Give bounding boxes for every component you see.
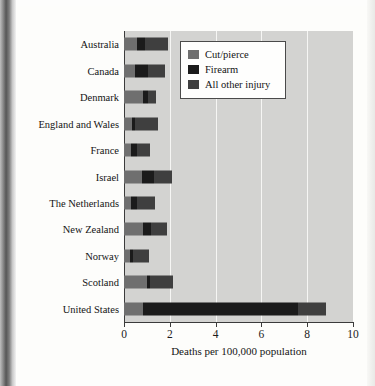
x-axis-tick-label: 4	[213, 328, 219, 340]
bar-segment	[135, 117, 158, 130]
x-axis-tick	[261, 322, 262, 327]
bar-segment	[143, 302, 298, 315]
category-label: France	[6, 145, 124, 156]
x-axis-line	[124, 322, 354, 323]
stacked-bar-chart: 0246810 AustraliaCanadaDenmarkEngland an…	[0, 0, 375, 386]
chart-legend: Cut/pierce Firearm All other injury	[180, 41, 286, 99]
bar-segment	[133, 249, 149, 262]
legend-label: Cut/pierce	[205, 49, 249, 60]
bar-segment	[124, 276, 147, 289]
category-label: Denmark	[6, 92, 124, 103]
bar-segment	[145, 38, 168, 51]
x-axis-tick	[124, 322, 125, 327]
category-label: New Zealand	[6, 224, 124, 235]
bar-segment	[124, 144, 131, 157]
bar-segment	[298, 302, 325, 315]
legend-label: All other injury	[205, 79, 270, 90]
x-axis-label: Deaths per 100,000 population	[124, 345, 354, 357]
bar-segment	[124, 117, 132, 130]
bar-segment	[124, 38, 137, 51]
x-axis-tick-label: 8	[304, 328, 310, 340]
x-axis-tick-label: 2	[167, 328, 173, 340]
category-label: Scotland	[6, 277, 124, 288]
category-label: Norway	[6, 250, 124, 261]
bar-segment	[142, 170, 153, 183]
bar-segment	[135, 64, 148, 77]
category-label: The Netherlands	[6, 197, 124, 208]
bar-segment	[143, 223, 151, 236]
category-label: Canada	[6, 65, 124, 76]
legend-swatch-firearm	[188, 65, 199, 74]
x-axis-tick	[216, 322, 217, 327]
chart-page: 0246810 AustraliaCanadaDenmarkEngland an…	[0, 0, 375, 386]
bar-segment	[151, 223, 167, 236]
bar-segment	[124, 223, 143, 236]
legend-swatch-cut-pierce	[188, 50, 199, 59]
category-label: United States	[6, 303, 124, 314]
category-label: England and Wales	[6, 118, 124, 129]
x-axis-tick	[307, 322, 308, 327]
legend-item: Cut/pierce	[188, 47, 278, 62]
legend-swatch-all-other-injury	[188, 80, 199, 89]
bar-segment	[137, 144, 151, 157]
x-axis-tick-label: 6	[259, 328, 265, 340]
category-label: Australia	[6, 39, 124, 50]
legend-item: All other injury	[188, 77, 278, 92]
legend-label: Firearm	[205, 64, 238, 75]
x-axis-tick	[353, 322, 354, 327]
x-axis-tick	[170, 322, 171, 327]
bar-segment	[124, 170, 142, 183]
category-labels: AustraliaCanadaDenmarkEngland and WalesF…	[0, 0, 124, 386]
bar-segment	[124, 196, 131, 209]
legend-item: Firearm	[188, 62, 278, 77]
gridline	[307, 31, 308, 322]
x-axis-tick-label: 10	[347, 328, 359, 340]
bar-segment	[124, 302, 143, 315]
bar-segment	[148, 64, 165, 77]
bar-segment	[154, 170, 172, 183]
bar-segment	[137, 38, 145, 51]
bar-segment	[137, 196, 155, 209]
bar-segment	[150, 276, 173, 289]
bar-segment	[148, 91, 156, 104]
category-label: Israel	[6, 171, 124, 182]
bar-segment	[124, 91, 143, 104]
bar-segment	[124, 64, 135, 77]
